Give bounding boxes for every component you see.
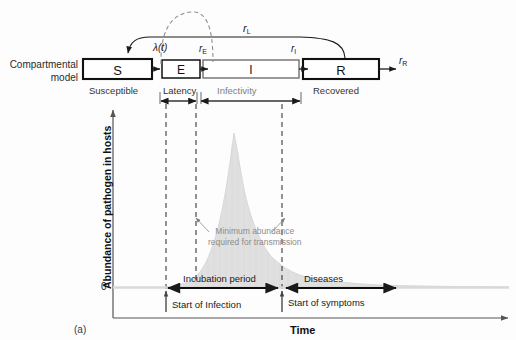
rate-label-rI: rI xyxy=(291,44,296,54)
y-axis-zero-label: 0 xyxy=(101,282,107,292)
diagram-graphics xyxy=(0,0,516,340)
stage-label-latency: Latency xyxy=(163,86,196,96)
stage-label-recovered: Recovered xyxy=(313,86,359,96)
rate-subscript-rI: I xyxy=(294,48,296,55)
pathogen-abundance-curve xyxy=(166,133,509,288)
rate-subscript-rE: E xyxy=(202,48,207,55)
period-label-incubation: Incubation period xyxy=(183,274,256,284)
compartment-letter-I: I xyxy=(203,63,299,77)
rate-label-rE: rE xyxy=(199,44,207,54)
panel-id-label: (a) xyxy=(74,325,86,335)
compartmental-model-title: Compartmental model xyxy=(4,59,78,84)
rate-label-lambda: λ(t) xyxy=(153,43,167,53)
min-abundance-annotation-line1: Minimum abundance xyxy=(208,226,302,237)
rate-label-rL: rL xyxy=(243,23,251,34)
rate-subscript-rR: R xyxy=(402,60,407,67)
min-abundance-annotation-line2: required for transmission xyxy=(208,237,302,248)
rate-subscript-rL: L xyxy=(247,28,251,35)
x-axis-title: Time xyxy=(290,325,315,336)
dashed-arc-latency xyxy=(161,12,213,64)
rate-label-rR: rR xyxy=(399,56,407,66)
compartment-letter-R: R xyxy=(303,63,379,78)
stage-label-infectivity: Infectivity xyxy=(217,86,257,96)
compartment-letter-S: S xyxy=(83,63,152,78)
compartmental-model-title-line2: model xyxy=(4,72,78,85)
plot-axes xyxy=(113,110,509,318)
figure-panel-a: Compartmental model S E I R Susceptible … xyxy=(0,0,516,340)
event-label-start-infection: Start of Infection xyxy=(172,300,241,310)
compartment-letter-E: E xyxy=(162,63,200,77)
period-label-diseases: Diseases xyxy=(304,274,343,284)
y-axis-title: Abundance of pathogen in hosts xyxy=(102,126,113,289)
stage-label-susceptible: Susceptible xyxy=(89,86,138,96)
rate-symbol-lambda: λ(t) xyxy=(153,42,167,53)
compartmental-model-title-line1: Compartmental xyxy=(4,59,78,72)
event-label-start-symptoms: Start of symptoms xyxy=(288,298,365,308)
min-abundance-annotation: Minimum abundance required for transmiss… xyxy=(208,226,302,247)
